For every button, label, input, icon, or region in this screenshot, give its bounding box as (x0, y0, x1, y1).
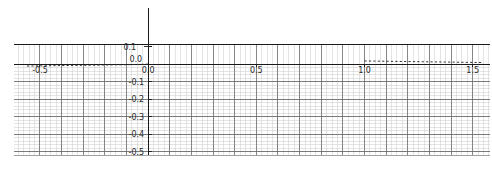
ytick-label--0.1: -0.1 (129, 78, 145, 87)
series-dashed-curve-right (365, 61, 482, 63)
ytick-label-0.1: 0.1 (123, 43, 136, 52)
chart-canvas: 0.10.0-0.1-0.2-0.3-0.4-0.5-0.50.00.51.01… (0, 0, 492, 170)
xtick-label-0.0: 0.0 (142, 66, 155, 75)
xtick-label--0.5: -0.5 (32, 66, 48, 75)
tick-labels: 0.10.0-0.1-0.2-0.3-0.4-0.5-0.50.00.51.01… (32, 43, 479, 157)
xtick-label-1.5: 1.5 (466, 66, 479, 75)
chart-figure: 0.10.0-0.1-0.2-0.3-0.4-0.5-0.50.00.51.01… (0, 0, 492, 170)
ytick-label--0.5: -0.5 (129, 148, 145, 157)
ytick-label--0.4: -0.4 (129, 130, 145, 139)
ytick-label-0-top: 0.0 (129, 55, 142, 64)
ytick-label--0.3: -0.3 (129, 113, 145, 122)
ytick-label--0.2: -0.2 (129, 95, 145, 104)
xtick-label-0.5: 0.5 (250, 66, 263, 75)
xtick-label-1.0: 1.0 (358, 66, 371, 75)
